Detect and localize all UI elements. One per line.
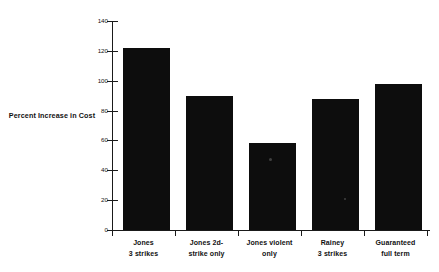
x-tick-1 xyxy=(175,230,176,236)
x-label-rainey-3-strikes: Rainey 3 strikes xyxy=(301,238,364,259)
y-tick-label: 40 xyxy=(101,166,108,173)
plot-area: 0 20 40 60 80 100 120 140 xyxy=(112,18,430,233)
y-tick-label: 80 xyxy=(101,107,108,114)
bar-jones-2d-strike-only[interactable] xyxy=(186,96,233,230)
x-label-jones-2d-strike-only: Jones 2d- strike only xyxy=(175,238,238,259)
x-label-jones-3-strikes: Jones 3 strikes xyxy=(112,238,175,259)
x-label-line-2: 3 strikes xyxy=(301,249,364,260)
x-label-line-2: only xyxy=(238,249,301,260)
y-tick-label: 140 xyxy=(98,17,108,24)
x-axis-line xyxy=(112,230,430,231)
x-label-line-1: Jones violent xyxy=(238,238,301,249)
x-label-line-2: full term xyxy=(364,249,427,260)
bar-guaranteed-full-term[interactable] xyxy=(375,84,422,230)
y-tick-label: 100 xyxy=(98,77,108,84)
scan-speck xyxy=(269,158,272,161)
x-label-jones-violent-only: Jones violent only xyxy=(238,238,301,259)
bar-rainey-3-strikes[interactable] xyxy=(312,99,359,230)
y-tick-label: 60 xyxy=(101,136,108,143)
x-tick-0 xyxy=(112,230,113,236)
x-axis-labels: Jones 3 strikes Jones 2d- strike only Jo… xyxy=(112,238,430,268)
x-tick-4 xyxy=(364,230,365,236)
x-label-line-1: Guaranteed xyxy=(364,238,427,249)
x-label-line-1: Jones 2d- xyxy=(175,238,238,249)
y-tick-label: 0 xyxy=(105,226,108,233)
y-tick-label: 120 xyxy=(98,47,108,54)
x-label-line-2: strike only xyxy=(175,249,238,260)
x-label-line-1: Jones xyxy=(112,238,175,249)
x-tick-2 xyxy=(238,230,239,236)
x-label-line-2: 3 strikes xyxy=(112,249,175,260)
x-label-guaranteed-full-term: Guaranteed full term xyxy=(364,238,427,259)
bar-chart-figure: Percent Increase in Cost 0 20 40 60 80 xyxy=(0,0,439,272)
y-axis-title: Percent Increase in Cost xyxy=(8,110,96,121)
y-tick-label: 20 xyxy=(101,196,108,203)
x-tick-3 xyxy=(301,230,302,236)
scan-speck xyxy=(344,198,346,200)
bar-jones-violent-only[interactable] xyxy=(249,143,296,230)
x-label-line-1: Rainey xyxy=(301,238,364,249)
x-tick-5 xyxy=(427,230,428,236)
y-axis-title-line-2: in Cost xyxy=(70,111,95,120)
bars-layer xyxy=(112,18,430,230)
bar-jones-3-strikes[interactable] xyxy=(123,48,170,230)
y-axis-title-line-1: Percent Increase xyxy=(9,111,68,120)
